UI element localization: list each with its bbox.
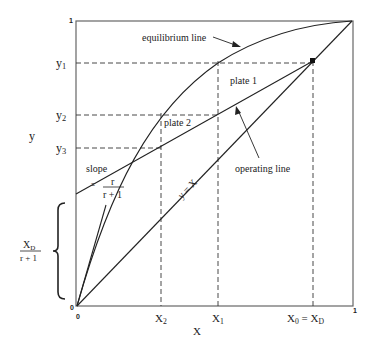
- slope-equals: =: [91, 181, 95, 188]
- x0-xd-label: X0 = XD: [287, 313, 324, 326]
- slope-denominator: r + 1: [103, 190, 122, 200]
- origin-x-label: 0: [76, 313, 80, 320]
- operating-line-label: operating line: [235, 164, 290, 174]
- diagonal-line: [77, 21, 352, 306]
- y-max-label: 1: [69, 17, 73, 24]
- x2-label: X2: [155, 313, 167, 326]
- mccabe-thiele-diagram: [0, 0, 375, 344]
- x-max-label: 1: [353, 307, 357, 314]
- operating-arrow-head: [235, 106, 241, 115]
- equilibrium-line-label: equilibrium line: [142, 33, 206, 43]
- intercept-numerator: XD: [23, 240, 35, 252]
- plate1-label: plate 1: [230, 76, 257, 86]
- y1-label: y1: [56, 57, 66, 71]
- equilibrium-arrow-head: [232, 41, 241, 47]
- intercept-brace: [53, 203, 65, 299]
- origin-y-label: 0: [70, 304, 74, 311]
- operating-arrow-shaft: [238, 110, 259, 158]
- intercept-denominator: r + 1: [20, 254, 37, 263]
- x-axis-label: X: [193, 326, 201, 337]
- y-axis-label: y: [29, 130, 35, 142]
- slope-numerator: r: [111, 177, 114, 187]
- slope-word: slope: [86, 164, 107, 174]
- plate2-label: plate 2: [164, 118, 191, 128]
- distillate-point: [310, 58, 315, 63]
- y2-label: y2: [56, 109, 66, 123]
- x1-label: X1: [212, 313, 224, 326]
- y3-label: y3: [56, 142, 66, 156]
